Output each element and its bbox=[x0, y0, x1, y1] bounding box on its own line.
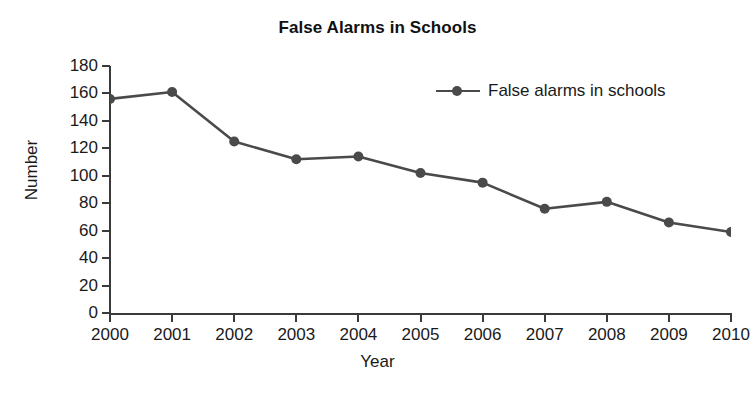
line-series-false-alarms-in-schools bbox=[110, 66, 731, 313]
legend-circle-icon bbox=[452, 86, 462, 96]
y-axis-tick bbox=[102, 257, 110, 259]
plot-area bbox=[110, 66, 731, 313]
y-axis-tick-label-text: 20 bbox=[54, 277, 98, 294]
y-axis-tick-label-text: 0 bbox=[54, 304, 98, 321]
y-axis-title: Number bbox=[22, 110, 42, 230]
y-axis-tick-label: 80 bbox=[50, 194, 98, 212]
y-axis-tick-label-text: 40 bbox=[54, 249, 98, 266]
y-axis-tick bbox=[102, 92, 110, 94]
y-axis-tick bbox=[102, 285, 110, 287]
chart-legend: False alarms in schools bbox=[436, 80, 666, 102]
data-point-marker bbox=[540, 204, 550, 214]
y-axis-tick-label: 120 bbox=[50, 139, 98, 157]
x-axis-tick bbox=[233, 313, 235, 322]
x-axis-title: Year bbox=[0, 352, 755, 372]
y-axis-tick-label: 60 bbox=[50, 222, 98, 240]
x-axis-tick-label: 2003 bbox=[261, 325, 331, 345]
y-axis-tick-label-text: 160 bbox=[54, 84, 98, 101]
x-axis-tick bbox=[482, 313, 484, 322]
x-axis-tick bbox=[295, 313, 297, 322]
y-axis-tick-label-text: 80 bbox=[54, 194, 98, 211]
series-markers bbox=[110, 87, 731, 237]
legend-label: False alarms in schools bbox=[488, 81, 666, 101]
y-axis-tick-label-text: 140 bbox=[54, 112, 98, 129]
data-point-marker bbox=[229, 136, 239, 146]
x-axis-tick-label: 2002 bbox=[199, 325, 269, 345]
chart-figure: False Alarms in Schools Number 020406080… bbox=[0, 0, 755, 406]
y-axis-tick bbox=[102, 202, 110, 204]
y-axis-tick bbox=[102, 230, 110, 232]
y-axis-tick-label: 100 bbox=[50, 167, 98, 185]
x-axis-tick-label: 2006 bbox=[448, 325, 518, 345]
x-axis-tick-label: 2009 bbox=[634, 325, 704, 345]
x-axis-tick-label: 2008 bbox=[572, 325, 642, 345]
x-axis-tick-label: 2010 bbox=[696, 325, 755, 345]
y-axis-tick-label: 140 bbox=[50, 112, 98, 130]
x-axis-tick bbox=[171, 313, 173, 322]
x-axis-tick bbox=[730, 313, 732, 322]
y-axis-tick bbox=[102, 120, 110, 122]
legend-marker-icon bbox=[436, 84, 480, 98]
series-line-path bbox=[110, 92, 731, 232]
data-point-marker bbox=[478, 178, 488, 188]
y-axis-tick-label: 40 bbox=[50, 249, 98, 267]
data-point-marker bbox=[664, 217, 674, 227]
x-axis-tick bbox=[420, 313, 422, 322]
data-point-marker bbox=[353, 152, 363, 162]
y-axis-tick-label-text: 100 bbox=[54, 167, 98, 184]
x-axis-tick-label: 2000 bbox=[75, 325, 145, 345]
y-axis-tick-label-text: 120 bbox=[54, 139, 98, 156]
data-point-marker bbox=[291, 154, 301, 164]
y-axis-tick bbox=[102, 65, 110, 67]
data-point-marker bbox=[602, 197, 612, 207]
y-axis-tick-label: 20 bbox=[50, 277, 98, 295]
data-point-marker bbox=[110, 94, 115, 104]
x-axis-tick-label: 2007 bbox=[510, 325, 580, 345]
x-axis-tick bbox=[544, 313, 546, 322]
y-axis-tick-label: 160 bbox=[50, 84, 98, 102]
x-axis-tick-label: 2005 bbox=[386, 325, 456, 345]
x-axis-tick-label: 2001 bbox=[137, 325, 207, 345]
x-axis-tick-label: 2004 bbox=[323, 325, 393, 345]
y-axis-tick bbox=[102, 175, 110, 177]
x-axis-tick bbox=[357, 313, 359, 322]
y-axis-tick-label-text: 60 bbox=[54, 222, 98, 239]
x-axis-tick bbox=[109, 313, 111, 322]
y-axis-tick-label: 0 bbox=[50, 304, 98, 322]
chart-title: False Alarms in Schools bbox=[0, 18, 755, 38]
data-point-marker bbox=[726, 227, 731, 237]
y-axis-tick-label: 180 bbox=[50, 57, 98, 75]
y-axis-tick bbox=[102, 147, 110, 149]
data-point-marker bbox=[416, 168, 426, 178]
y-axis-tick-label-text: 180 bbox=[54, 57, 98, 74]
data-point-marker bbox=[167, 87, 177, 97]
x-axis-tick bbox=[606, 313, 608, 322]
x-axis-tick bbox=[668, 313, 670, 322]
